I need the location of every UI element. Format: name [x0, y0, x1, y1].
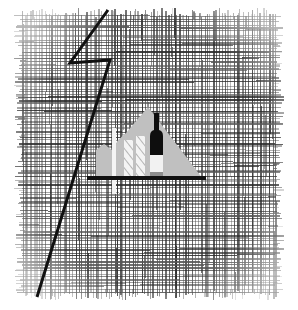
bottle-body [150, 130, 163, 155]
artwork-canvas [0, 0, 298, 310]
bottle-neck [154, 113, 159, 132]
light-pole [112, 128, 116, 194]
artboard [0, 0, 298, 310]
candle-left [124, 140, 133, 178]
candle-right [136, 136, 145, 178]
ground-bar [87, 176, 206, 180]
